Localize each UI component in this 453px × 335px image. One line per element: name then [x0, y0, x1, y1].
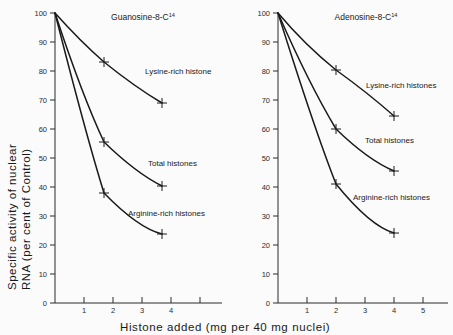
left-label-arginine: Arginine-rich histones [128, 209, 205, 218]
right-x-ticklabels: 1 2 3 4 5 [305, 306, 425, 315]
left-ytick-100: 100 [34, 9, 47, 18]
left-xtick-4: 4 [169, 306, 173, 315]
right-xtick-1: 1 [305, 306, 309, 315]
left-y-ticks [50, 13, 55, 303]
left-x-ticklabels: 1 2 3 4 [82, 306, 173, 315]
left-ytick-30: 30 [39, 212, 47, 221]
right-ytick-100: 100 [257, 9, 270, 18]
right-ytick-30: 30 [262, 212, 270, 221]
left-ytick-80: 80 [39, 67, 47, 76]
left-curve-arginine [55, 13, 162, 234]
right-panel-title-text: Adenosine-8-C [335, 12, 392, 22]
left-y-ticklabels: 100 90 80 70 60 50 40 30 20 10 0 [34, 9, 47, 308]
right-ytick-70: 70 [262, 96, 270, 105]
right-ytick-20: 20 [262, 241, 270, 250]
right-xtick-2: 2 [334, 306, 338, 315]
left-ytick-50: 50 [39, 154, 47, 163]
x-axis-title: Histone added (mg per 40 mg nuclei) [120, 321, 330, 333]
left-panel-title: Guanosine-8-C14 [111, 12, 175, 22]
right-x-ticks [307, 297, 423, 303]
right-panel-title-superscript: 14 [391, 12, 397, 18]
left-ytick-20: 20 [39, 241, 47, 250]
left-ytick-0: 0 [43, 299, 47, 308]
left-xtick-1: 1 [82, 306, 86, 315]
left-label-total: Total histones [148, 159, 197, 168]
right-label-arginine: Arginine-rich histones [353, 193, 430, 202]
two-panel-line-chart: 100 90 80 70 60 50 40 30 20 10 0 [0, 0, 453, 335]
right-ytick-90: 90 [262, 38, 270, 47]
right-ytick-40: 40 [262, 183, 270, 192]
right-ytick-50: 50 [262, 154, 270, 163]
right-y-ticks [273, 13, 278, 303]
left-ytick-70: 70 [39, 96, 47, 105]
panel-adenosine: 100 90 80 70 60 50 40 30 20 10 0 1 [257, 9, 448, 315]
right-ytick-60: 60 [262, 125, 270, 134]
left-panel-title-text: Guanosine-8-C [111, 12, 169, 22]
left-panel-title-superscript: 14 [169, 12, 175, 18]
left-xtick-3: 3 [140, 306, 144, 315]
left-label-lysine: Lysine-rich histone [145, 67, 212, 76]
right-curve-lysine [278, 13, 394, 116]
right-label-total: Total histones [365, 136, 414, 145]
figure-container: 100 90 80 70 60 50 40 30 20 10 0 [0, 0, 453, 335]
left-curve-total [55, 13, 162, 186]
panel-guanosine: 100 90 80 70 60 50 40 30 20 10 0 [34, 9, 222, 315]
left-ytick-90: 90 [39, 38, 47, 47]
left-x-ticks [84, 297, 200, 303]
right-ytick-0: 0 [266, 299, 270, 308]
right-panel-title: Adenosine-8-C14 [335, 12, 398, 22]
right-y-ticklabels: 100 90 80 70 60 50 40 30 20 10 0 [257, 9, 270, 308]
right-ytick-10: 10 [262, 270, 270, 279]
right-xtick-5: 5 [421, 306, 425, 315]
right-xtick-4: 4 [392, 306, 396, 315]
right-curve-total [278, 13, 394, 171]
right-ytick-80: 80 [262, 67, 270, 76]
left-ytick-10: 10 [39, 270, 47, 279]
y-axis-title-line1: Specific activity of nuclear [6, 144, 18, 290]
left-ytick-60: 60 [39, 125, 47, 134]
y-axis-title-line2: RNA (per cent of Control) [20, 148, 32, 290]
left-xtick-2: 2 [111, 306, 115, 315]
right-xtick-3: 3 [363, 306, 367, 315]
right-label-lysine: Lysine-rich histones [366, 81, 436, 90]
left-ytick-40: 40 [39, 183, 47, 192]
